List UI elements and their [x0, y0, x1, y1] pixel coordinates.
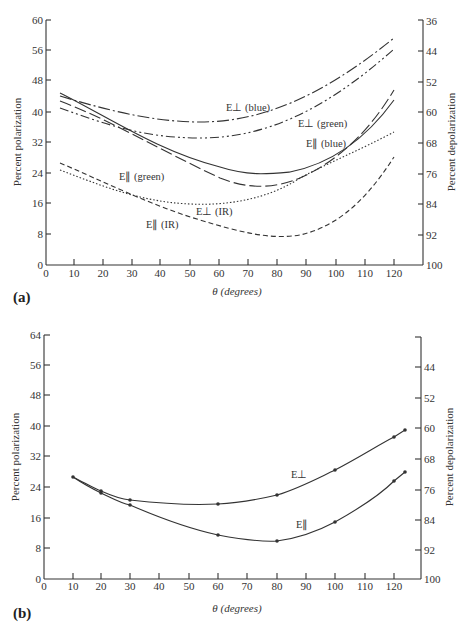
b-rtick: 76	[424, 484, 436, 496]
b-rtick: 92	[424, 544, 435, 556]
a-ytick: 48	[32, 74, 44, 86]
b-rtick: 84	[424, 514, 436, 526]
b-xtick: 90	[301, 580, 313, 592]
a-rtick: 84	[426, 198, 438, 210]
b-ytick: 24	[30, 481, 42, 493]
b-ytick: 32	[30, 450, 41, 462]
a-rtick: 100	[426, 259, 443, 271]
a-ytick: 56	[32, 44, 44, 56]
label-b-perp: E⊥	[291, 469, 307, 480]
a-rtick: 76	[426, 168, 438, 180]
b-ytick: 16	[30, 512, 42, 524]
a-x-ticks: 0 10 20 30 40 50 60 70 80 90 100 110 120	[43, 259, 403, 279]
curve-b-par	[73, 472, 405, 541]
b-right-ticks: 44 52 60 68 76 84 92 100	[415, 361, 441, 585]
b-xtick: 20	[96, 580, 108, 592]
a-rtick: 92	[426, 229, 437, 241]
b-xtick: 30	[125, 580, 137, 592]
a-rtick: 44	[426, 45, 438, 57]
figure: 60 56 48 40 32 24 16 8 0 36 44 52 60 68 …	[0, 0, 474, 633]
b-xlabel: θ (degrees)	[212, 602, 262, 615]
a-ytick: 16	[32, 197, 44, 209]
b-rtick: 44	[424, 361, 436, 373]
a-ytick: 60	[32, 14, 44, 26]
b-ytick: 40	[30, 420, 42, 432]
b-ytick: 48	[30, 389, 42, 401]
b-xtick: 40	[154, 580, 166, 592]
b-xtick: 110	[357, 580, 374, 592]
chart-a: 60 56 48 40 32 24 16 8 0 36 44 52 60 68 …	[11, 14, 457, 306]
a-right-ticks: 36 44 52 60 68 76 84 92 100	[418, 15, 443, 271]
a-xlabel: θ (degrees)	[212, 285, 262, 298]
b-xtick: 10	[68, 580, 80, 592]
a-ytick: 24	[32, 167, 44, 179]
a-ylabel-left: Percent polarization	[11, 97, 23, 186]
panel-b-label: (b)	[13, 605, 31, 622]
markers-b-perp	[71, 428, 407, 506]
chart-b: 64 56 48 40 32 24 16 8 0 44 52 60 68 76 …	[9, 329, 455, 622]
b-xtick: 100	[327, 580, 344, 592]
a-xtick: 0	[43, 267, 49, 279]
label-perp-blue: E⊥ (blue)	[226, 102, 271, 114]
a-xtick: 90	[301, 267, 313, 279]
a-rtick: 36	[426, 15, 438, 27]
b-rtick: 68	[424, 453, 436, 465]
label-perp-ir: E⊥ (IR)	[196, 206, 233, 218]
a-xtick: 10	[69, 267, 81, 279]
b-ylabel-left: Percent polarization	[9, 412, 21, 501]
a-left-ticks: 60 56 48 40 32 24 16 8 0	[32, 14, 51, 271]
curve-b-perp	[73, 430, 405, 504]
label-par-green: E∥ (green)	[119, 171, 165, 183]
a-xtick: 60	[214, 267, 226, 279]
a-ytick: 8	[38, 228, 44, 240]
b-rtick: 52	[424, 392, 435, 404]
b-xtick: 60	[213, 580, 225, 592]
b-x-ticks: 0 10 20 30 40 50 60 70 80 90 100 110 120	[41, 573, 403, 592]
a-ylabel-right: Percent depolarization	[445, 92, 457, 191]
b-xtick: 50	[184, 580, 196, 592]
b-xtick: 70	[242, 580, 254, 592]
a-rtick: 52	[426, 76, 437, 88]
b-ytick: 8	[36, 542, 42, 554]
a-ytick: 32	[32, 136, 43, 148]
a-xtick: 100	[328, 267, 345, 279]
a-ytick: 40	[32, 106, 44, 118]
label-par-blue: E∥ (blue)	[306, 138, 347, 150]
a-xtick: 80	[272, 267, 284, 279]
b-xtick: 120	[386, 580, 403, 592]
b-xtick: 80	[272, 580, 284, 592]
panel-a-label: (a)	[13, 289, 31, 306]
b-ytick: 64	[30, 329, 42, 341]
b-ytick: 56	[30, 359, 42, 371]
label-b-par: E∥	[296, 519, 308, 531]
label-par-ir: E∥ (IR)	[146, 219, 179, 231]
a-xtick: 30	[127, 267, 139, 279]
label-perp-green: E⊥ (green)	[298, 118, 348, 130]
b-rtick: 60	[424, 422, 436, 434]
a-xtick: 40	[155, 267, 167, 279]
a-rtick: 60	[426, 106, 438, 118]
b-left-ticks: 64 56 48 40 32 24 16 8 0	[30, 329, 50, 585]
a-xtick: 70	[243, 267, 255, 279]
b-xtick: 0	[41, 580, 47, 592]
b-rtick: 100	[424, 573, 441, 585]
a-xtick: 120	[386, 267, 403, 279]
a-xtick: 20	[98, 267, 110, 279]
a-xtick: 50	[185, 267, 197, 279]
a-rtick: 68	[426, 137, 438, 149]
b-ylabel-right: Percent depolarization	[443, 407, 455, 506]
a-xtick: 110	[357, 267, 374, 279]
